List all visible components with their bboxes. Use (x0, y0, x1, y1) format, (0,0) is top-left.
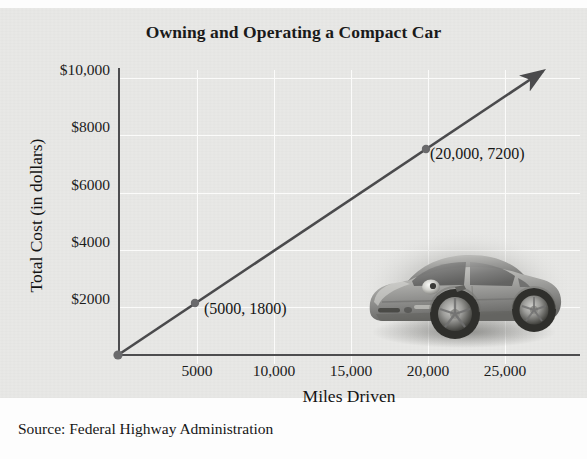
figure-container: Owning and Operating a Compact Car $10,0… (0, 0, 587, 459)
x-tick-label: 25,000 (484, 362, 527, 380)
x-tick-label: 15,000 (330, 362, 373, 380)
x-tick-label: 10,000 (253, 362, 296, 380)
data-point-annotation: (20,000, 7200) (430, 145, 525, 163)
data-point-annotation: (5000, 1800) (204, 300, 287, 318)
y-axis-title: Total Cost (in dollars) (26, 101, 47, 331)
x-axis-title: Miles Driven (118, 386, 580, 407)
x-tick-label: 5000 (182, 362, 213, 380)
x-tick-label: 20,000 (407, 362, 450, 380)
source-caption: Source: Federal Highway Administration (18, 420, 273, 438)
